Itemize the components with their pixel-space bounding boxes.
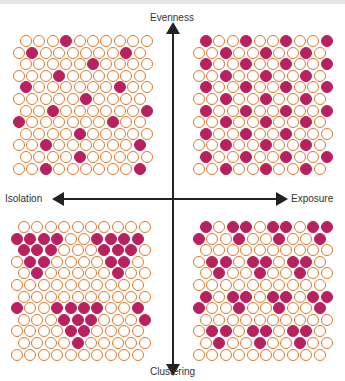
filled-circle xyxy=(193,233,205,245)
empty-circle xyxy=(254,314,266,326)
empty-circle xyxy=(314,163,326,175)
empty-circle xyxy=(38,302,50,314)
empty-circle xyxy=(53,47,65,59)
filled-circle xyxy=(220,47,232,59)
empty-circle xyxy=(294,105,306,117)
empty-circle xyxy=(47,128,59,140)
filled-circle xyxy=(240,291,252,303)
empty-circle xyxy=(206,47,218,59)
filled-circle xyxy=(280,291,292,303)
empty-circle xyxy=(139,221,151,233)
empty-circle xyxy=(227,35,239,47)
empty-circle xyxy=(254,35,266,47)
empty-circle xyxy=(120,163,132,175)
empty-circle xyxy=(100,105,112,117)
empty-circle xyxy=(125,314,137,326)
empty-circle xyxy=(112,337,124,349)
empty-circle xyxy=(206,233,218,245)
empty-circle xyxy=(53,163,65,175)
empty-circle xyxy=(141,58,153,70)
empty-circle xyxy=(273,47,285,59)
empty-circle xyxy=(18,291,30,303)
empty-circle xyxy=(287,93,299,105)
empty-circle xyxy=(294,291,306,303)
empty-circle xyxy=(247,47,259,59)
empty-circle xyxy=(321,267,333,279)
empty-circle xyxy=(247,116,259,128)
empty-circle xyxy=(93,163,105,175)
empty-circle xyxy=(307,105,319,117)
empty-circle xyxy=(20,105,32,117)
empty-circle xyxy=(267,35,279,47)
empty-circle xyxy=(300,233,312,245)
empty-circle xyxy=(47,58,59,70)
arrow-right-icon xyxy=(276,192,288,206)
empty-circle xyxy=(51,256,63,268)
filled-circle xyxy=(141,105,153,117)
filled-circle xyxy=(254,337,266,349)
empty-circle xyxy=(72,267,84,279)
filled-circle xyxy=(200,35,212,47)
empty-circle xyxy=(193,256,205,268)
filled-circle xyxy=(220,70,232,82)
empty-circle xyxy=(132,279,144,291)
empty-circle xyxy=(267,105,279,117)
empty-circle xyxy=(65,349,77,361)
empty-circle xyxy=(65,279,77,291)
empty-circle xyxy=(141,35,153,47)
empty-circle xyxy=(273,349,285,361)
filled-circle xyxy=(280,105,292,117)
empty-circle xyxy=(247,349,259,361)
filled-circle xyxy=(91,233,103,245)
filled-circle xyxy=(24,233,36,245)
filled-circle xyxy=(300,70,312,82)
filled-circle xyxy=(132,233,144,245)
empty-circle xyxy=(112,291,124,303)
filled-circle xyxy=(200,291,212,303)
empty-circle xyxy=(287,47,299,59)
empty-circle xyxy=(141,151,153,163)
filled-circle xyxy=(112,244,124,256)
filled-circle xyxy=(321,291,333,303)
empty-circle xyxy=(67,70,79,82)
empty-circle xyxy=(13,93,25,105)
filled-circle xyxy=(307,291,319,303)
empty-circle xyxy=(85,221,97,233)
empty-circle xyxy=(314,279,326,291)
empty-circle xyxy=(287,279,299,291)
empty-circle xyxy=(127,128,139,140)
filled-circle xyxy=(260,163,272,175)
empty-circle xyxy=(254,291,266,303)
empty-circle xyxy=(193,163,205,175)
filled-circle xyxy=(287,256,299,268)
filled-circle xyxy=(321,58,333,70)
empty-circle xyxy=(267,151,279,163)
empty-circle xyxy=(98,291,110,303)
empty-circle xyxy=(139,291,151,303)
empty-circle xyxy=(114,35,126,47)
empty-circle xyxy=(193,47,205,59)
empty-circle xyxy=(65,256,77,268)
axis-label-left: Isolation xyxy=(5,193,42,204)
empty-circle xyxy=(227,105,239,117)
filled-circle xyxy=(260,256,272,268)
empty-circle xyxy=(247,163,259,175)
empty-circle xyxy=(220,302,232,314)
empty-circle xyxy=(314,47,326,59)
empty-circle xyxy=(87,105,99,117)
filled-circle xyxy=(38,233,50,245)
empty-circle xyxy=(24,349,36,361)
filled-circle xyxy=(65,325,77,337)
empty-circle xyxy=(141,128,153,140)
filled-circle xyxy=(72,314,84,326)
filled-circle xyxy=(85,314,97,326)
empty-circle xyxy=(40,116,52,128)
filled-circle xyxy=(134,163,146,175)
filled-circle xyxy=(300,256,312,268)
filled-circle xyxy=(247,325,259,337)
empty-circle xyxy=(227,128,239,140)
empty-circle xyxy=(125,291,137,303)
empty-circle xyxy=(20,128,32,140)
empty-circle xyxy=(321,128,333,140)
empty-circle xyxy=(87,35,99,47)
